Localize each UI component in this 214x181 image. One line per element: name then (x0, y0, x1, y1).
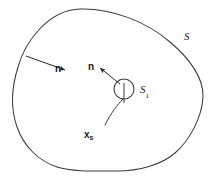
surface-diagram-svg (0, 0, 214, 181)
source-point-connector (105, 99, 123, 125)
inner-surface-label-subscript: 1 (146, 92, 150, 100)
inner-surface-label: S1 (140, 84, 149, 98)
outer-normal-label: n (55, 64, 61, 74)
outer-surface-boundary (13, 9, 203, 171)
source-point-label: xs (84, 130, 93, 140)
inner-normal-arrow (100, 68, 120, 84)
figure-canvas: n n S S1 xs (0, 0, 214, 181)
source-point-label-base: x (84, 129, 90, 140)
outer-surface-label: S (184, 31, 190, 42)
inner-surface-label-base: S (140, 83, 146, 95)
source-point-label-subscript: s (90, 134, 94, 141)
inner-normal-label: n (88, 62, 94, 72)
